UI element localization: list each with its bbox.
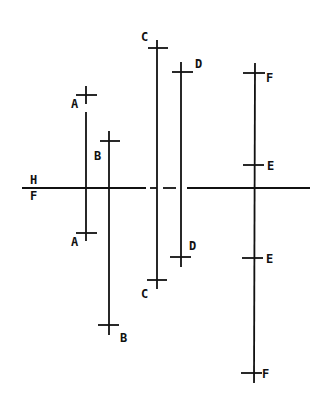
label-e-lower: E <box>266 252 273 266</box>
line-a: A A <box>71 86 97 249</box>
label-a-bottom: A <box>71 235 79 249</box>
label-c-bottom: C <box>141 287 148 301</box>
label-h: H <box>30 173 37 187</box>
reference-line-hf: H F <box>22 173 310 203</box>
line-c: C C <box>141 30 168 301</box>
label-f-top: F <box>266 71 273 85</box>
line-b: B B <box>94 131 127 345</box>
label-d-top: D <box>195 57 202 71</box>
label-b-bottom: B <box>120 331 127 345</box>
projection-diagram: H F A A B B C C D D <box>0 0 329 401</box>
label-b-top: B <box>94 149 101 163</box>
label-c-top: C <box>141 30 148 44</box>
line-f-vertical <box>254 63 255 383</box>
line-d: D D <box>170 57 202 267</box>
label-f-reference: F <box>30 189 37 203</box>
label-a-top: A <box>71 97 79 111</box>
label-e-upper: E <box>267 159 274 173</box>
line-f: F E E F <box>241 63 274 383</box>
label-d-bottom: D <box>189 239 196 253</box>
label-f-bottom: F <box>262 367 269 381</box>
